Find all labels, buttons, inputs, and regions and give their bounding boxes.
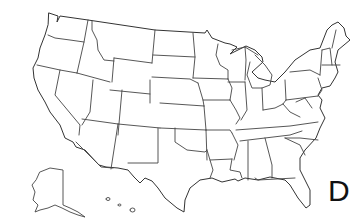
hawaii-island-2 xyxy=(118,204,121,206)
partial-label-letter: D xyxy=(328,176,350,206)
border-oh-pa xyxy=(285,80,286,100)
border-ny-new-england xyxy=(320,50,322,75)
border-dakotas-mn xyxy=(193,33,195,78)
border-mn-wi xyxy=(216,44,228,79)
us-outline xyxy=(33,13,350,212)
border-vt-nh xyxy=(322,48,332,65)
border-or-ca xyxy=(37,65,77,73)
border-wy-co xyxy=(110,90,150,94)
border-mo-ar xyxy=(206,130,232,133)
border-nd-sd xyxy=(153,55,195,57)
hawaii-island-1 xyxy=(106,198,110,201)
border-az-mexico xyxy=(76,142,113,168)
border-ok-ar xyxy=(206,130,207,160)
border-co-nm xyxy=(118,124,160,128)
border-mn-ia xyxy=(193,78,228,79)
border-ar-la xyxy=(210,159,232,160)
border-nv-ut xyxy=(82,80,93,125)
border-oh-wv-ky xyxy=(263,100,286,110)
border-ga-sc xyxy=(285,138,305,155)
border-md-va xyxy=(296,98,312,108)
border-tn-south xyxy=(240,131,302,141)
border-nm-tx xyxy=(128,128,158,163)
border-wa-id xyxy=(77,20,88,73)
us-states-map xyxy=(0,0,352,218)
border-ok-tx xyxy=(175,128,207,152)
border-id-mt xyxy=(92,21,114,61)
border-ut-co xyxy=(118,90,122,135)
border-nc-sc xyxy=(285,138,318,140)
border-mo-il xyxy=(230,100,240,124)
border-id-wy xyxy=(112,58,114,82)
border-tx-la xyxy=(207,150,213,178)
border-ky-tn xyxy=(236,122,318,130)
border-id-nv xyxy=(77,73,110,82)
border-al-ga xyxy=(265,138,272,178)
border-la-ms xyxy=(230,159,242,178)
border-ny-pa xyxy=(290,70,320,75)
border-ne-ia xyxy=(198,83,204,106)
border-mi-lower xyxy=(247,55,272,88)
border-ut-az xyxy=(82,119,118,124)
alaska-inset xyxy=(32,168,85,217)
border-ks-ok xyxy=(160,128,206,130)
border-ne-ks xyxy=(160,103,204,106)
border-sd-ne xyxy=(152,77,198,83)
border-wa-or xyxy=(48,35,84,42)
border-nh-me xyxy=(332,30,336,48)
border-in-oh xyxy=(262,88,263,110)
border-mt-wy xyxy=(114,58,152,63)
border-ar-ms xyxy=(232,133,238,160)
border-ca-nv xyxy=(55,70,80,135)
hawaii-island-3 xyxy=(130,208,135,212)
border-mt-dakota xyxy=(152,30,155,63)
border-az-nm xyxy=(111,124,118,169)
border-ky-va xyxy=(283,104,300,117)
border-il-in xyxy=(241,82,247,120)
border-ks-mo xyxy=(204,106,206,130)
lake-michigan-shore xyxy=(245,47,246,80)
